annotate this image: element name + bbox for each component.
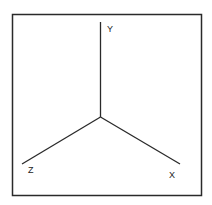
y-axis-label: Y: [107, 25, 113, 34]
x-axis-label: X: [169, 171, 175, 180]
x-axis-line: [101, 117, 181, 164]
z-axis-label: Z: [28, 166, 34, 175]
frame-border: [13, 15, 202, 196]
z-axis-line: [22, 117, 101, 164]
